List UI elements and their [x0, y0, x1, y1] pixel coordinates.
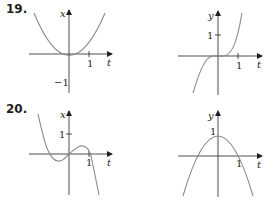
t-axis-label: t: [257, 159, 262, 170]
tick-label-t1: 1: [86, 157, 92, 168]
graph-20-right: y t 1 1: [178, 110, 262, 197]
graphs-canvas: x t 1 −1 y t 1 1 x t 1 1 y t 1 1: [0, 0, 276, 205]
t-axis-label: t: [257, 59, 262, 70]
x-axis-label: x: [60, 8, 66, 19]
tick-label-x-minus1: −1: [54, 77, 69, 88]
tick-label-t1: 1: [236, 158, 242, 169]
y-axis-label: y: [207, 110, 214, 121]
t-axis-label: t: [107, 57, 112, 68]
graph-20-left: x t 1 1: [29, 109, 112, 195]
graph-19-left: x t 1 −1: [29, 8, 112, 93]
tick-label-x1: 1: [59, 129, 65, 140]
cubic-curve: [38, 114, 99, 195]
tick-label-y1: 1: [210, 126, 216, 137]
tick-label-t1: 1: [236, 60, 242, 71]
x-axis-label: x: [60, 109, 66, 120]
tick-label-t1: 1: [87, 58, 93, 69]
t-axis-label: t: [107, 157, 112, 168]
cubic-curve: [193, 13, 242, 93]
parabola-curve: [34, 13, 105, 56]
graph-19-right: y t 1 1: [178, 10, 262, 95]
y-axis-label: y: [207, 10, 214, 21]
tick-label-y1: 1: [207, 30, 213, 41]
